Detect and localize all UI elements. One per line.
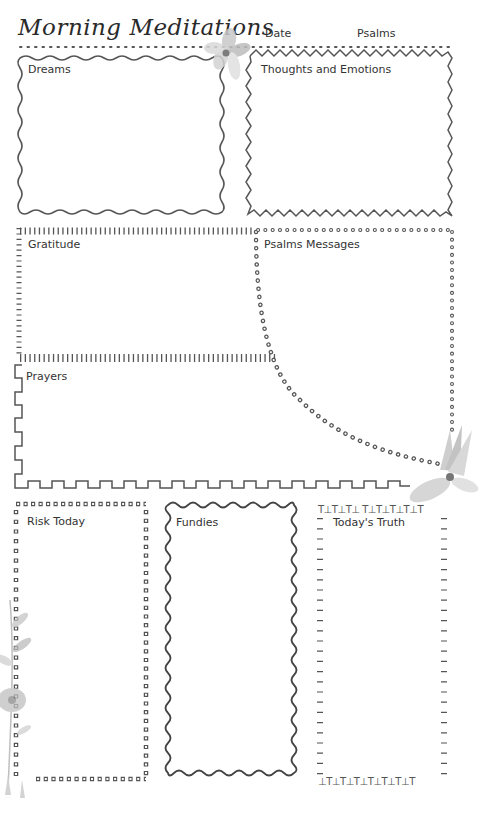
psalms-messages-field[interactable] xyxy=(262,252,447,452)
todays-truth-label: Today's Truth xyxy=(333,516,405,529)
risk-today-field[interactable] xyxy=(24,530,139,770)
svg-text:T⊥T⊥T⊥ T⊥T⊥T⊥T⊥T: T⊥T⊥T⊥ T⊥T⊥T⊥T⊥T xyxy=(317,504,424,515)
psalms-label: Psalms xyxy=(357,27,395,40)
risk-today-label: Risk Today xyxy=(27,515,85,528)
svg-text:⊥T⊥T⊥T⊥T⊥T⊥T⊥T: ⊥T⊥T⊥T⊥T⊥T⊥T⊥T xyxy=(318,776,416,787)
thoughts-field[interactable] xyxy=(256,78,446,208)
dreams-field[interactable] xyxy=(24,78,219,208)
gratitude-field[interactable] xyxy=(24,252,254,352)
thoughts-label: Thoughts and Emotions xyxy=(261,63,391,76)
date-label: Date xyxy=(265,27,291,40)
psalms-messages-label: Psalms Messages xyxy=(264,238,360,251)
psalms-field[interactable] xyxy=(395,24,455,42)
todays-truth-field[interactable] xyxy=(328,530,438,770)
date-field[interactable] xyxy=(292,24,347,42)
fundies-label: Fundies xyxy=(176,516,218,529)
prayers-field[interactable] xyxy=(24,384,284,476)
page-title: Morning Meditations xyxy=(18,14,274,40)
dreams-label: Dreams xyxy=(28,63,71,76)
gratitude-label: Gratitude xyxy=(28,238,80,251)
fundies-field[interactable] xyxy=(172,530,290,770)
prayers-label: Prayers xyxy=(26,370,67,383)
